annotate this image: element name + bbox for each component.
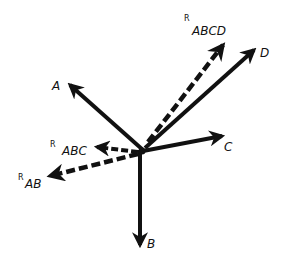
origin-point [139,148,146,155]
label-r-ab-prefix: R [18,174,24,182]
resultant-abc [97,147,138,152]
vector-a [70,85,143,150]
label-b: B [147,238,155,250]
label-r-abcd: ABCD [192,25,226,37]
label-r-abc-prefix: R [50,141,56,149]
vector-diagram [0,0,283,270]
label-r-abc: ABC [62,145,87,157]
resultant-abcd [148,45,223,142]
label-r-abcd-prefix: R [184,15,190,23]
label-r-ab: AB [25,178,41,190]
vector-d [145,50,254,148]
label-d: D [260,47,269,59]
label-c: C [224,141,232,153]
label-a: A [52,80,60,92]
